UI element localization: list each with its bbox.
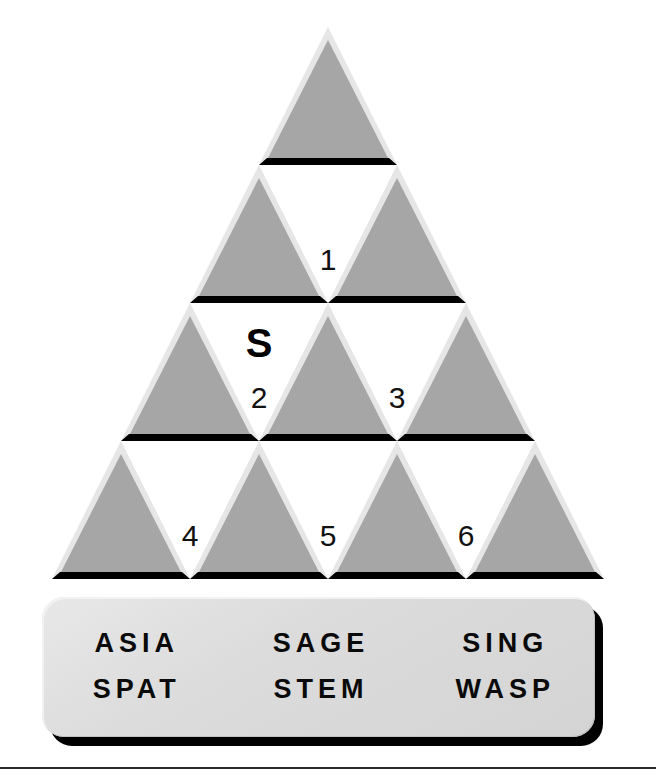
up-triangle-r4-c1[interactable] bbox=[52, 441, 190, 579]
up-triangle-r2-c1[interactable] bbox=[190, 165, 328, 303]
word-asia[interactable]: ASIA bbox=[42, 630, 226, 657]
word-stem[interactable]: STEM bbox=[226, 676, 410, 703]
up-triangle-r4-c3[interactable] bbox=[328, 441, 466, 579]
up-triangle-r1-c1[interactable] bbox=[259, 27, 397, 165]
cell-2[interactable]: S 2 bbox=[246, 321, 273, 414]
up-triangle-r3-c3[interactable] bbox=[397, 303, 535, 441]
up-triangle-r3-c1[interactable] bbox=[121, 303, 259, 441]
word-bank-row-1: ASIA SAGE SING bbox=[42, 620, 595, 666]
word-bank: ASIA SAGE SING SPAT STEM WASP bbox=[42, 597, 595, 742]
up-triangle-r3-c2[interactable] bbox=[259, 303, 397, 441]
bottom-divider bbox=[0, 767, 656, 769]
cell-6[interactable]: 6 bbox=[458, 519, 475, 552]
cell-1[interactable]: 1 bbox=[320, 243, 337, 276]
cell-5-number: 5 bbox=[320, 519, 337, 552]
cell-3[interactable]: 3 bbox=[389, 381, 406, 414]
cell-3-number: 3 bbox=[389, 381, 406, 414]
word-spat[interactable]: SPAT bbox=[42, 676, 226, 703]
up-triangle-r4-c4[interactable] bbox=[466, 441, 604, 579]
triangle-pyramid: 1 S 2 3 bbox=[0, 0, 656, 600]
cell-6-number: 6 bbox=[458, 519, 475, 552]
up-triangle-r4-c2[interactable] bbox=[190, 441, 328, 579]
up-triangle-r2-c2[interactable] bbox=[328, 165, 466, 303]
word-bank-row-2: SPAT STEM WASP bbox=[42, 666, 595, 712]
cell-4[interactable]: 4 bbox=[182, 519, 199, 552]
puzzle-stage: 1 S 2 3 bbox=[0, 0, 656, 783]
cell-4-number: 4 bbox=[182, 519, 199, 552]
cell-2-number: 2 bbox=[251, 381, 268, 414]
word-wasp[interactable]: WASP bbox=[411, 676, 595, 703]
cell-5[interactable]: 5 bbox=[320, 519, 337, 552]
word-bank-body: ASIA SAGE SING SPAT STEM WASP bbox=[42, 597, 595, 737]
cell-2-letter: S bbox=[246, 321, 273, 365]
word-sing[interactable]: SING bbox=[411, 630, 595, 657]
word-sage[interactable]: SAGE bbox=[226, 630, 410, 657]
cell-1-number: 1 bbox=[320, 243, 337, 276]
